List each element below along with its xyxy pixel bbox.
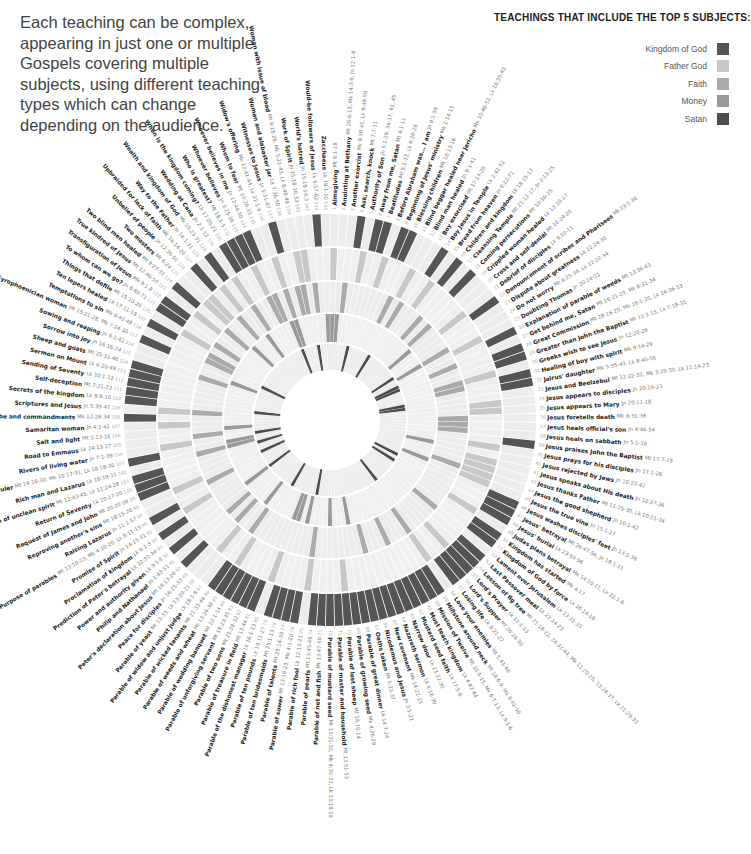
cell-empty [327, 528, 332, 558]
cell-empty [330, 282, 336, 312]
cell-empty [408, 417, 436, 421]
cell-empty [192, 421, 222, 427]
cell-filled [438, 416, 468, 421]
cell-filled [317, 594, 326, 626]
teaching-label: Parable of net and fish Mt 13:47-50 73 [312, 630, 323, 745]
cell-empty [333, 560, 341, 592]
cell-empty [504, 405, 536, 414]
teaching-label: 37 Jesus heals official's son Jn 4:46-54 [540, 423, 656, 434]
teaching-label: 72 Parable of mustard seed Mt 13:31-32, … [327, 630, 333, 818]
cell-empty [330, 214, 338, 246]
teaching-label: 1 Almsgiving Mt 6:1-18 [331, 142, 340, 210]
cell-filled [328, 498, 332, 526]
cell-empty [324, 282, 330, 312]
cell-empty [319, 560, 327, 592]
cell-empty [124, 422, 156, 431]
cell-filled [334, 594, 343, 626]
ring-satan [254, 344, 406, 496]
cell-empty [321, 214, 329, 246]
teaching-label: Scriptures and Jesus Jn 5:39-47 109 [14, 399, 120, 412]
teaching-label: Samaritan woman Jn 4:1-42 107 [25, 423, 120, 433]
cell-empty [470, 415, 502, 422]
cell-filled [330, 248, 337, 280]
cell-filled [158, 422, 190, 429]
teaching-label: 71 Parable of master and household Mt 13… [337, 630, 350, 780]
teaching-label: 35 Jesus appears to Mary Jn 20:11-18 [539, 399, 651, 412]
teaching-label: 36 Jesus foretells death Mk 8:31-38 [540, 413, 646, 421]
teaching-label: Scribe and commandments Mk 12:28-34 108 [0, 413, 120, 421]
cell-empty [224, 417, 252, 421]
cell-empty [328, 470, 331, 496]
cell-empty [504, 422, 536, 431]
cell-empty [158, 415, 190, 422]
cell-empty [124, 405, 156, 414]
cell-filled [124, 414, 156, 422]
teaching-label: Zacchaeus Lk 19:1-10 143 [321, 136, 329, 211]
cell-empty [504, 414, 536, 422]
cell-filled [326, 594, 334, 626]
teaching-labels: 1 Almsgiving Mt 6:1-182 Anointing at Bet… [0, 25, 710, 818]
cell-filled [438, 421, 468, 427]
cell-empty [470, 422, 502, 429]
cell-empty [192, 416, 222, 421]
cell-empty [323, 248, 330, 280]
cell-empty [327, 560, 334, 592]
